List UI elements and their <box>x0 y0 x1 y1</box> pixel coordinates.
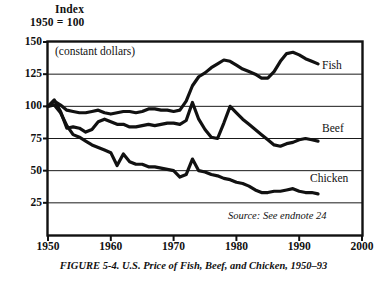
series-label-beef: Beef <box>322 122 344 134</box>
source-note: Source: See endnote 24 <box>228 210 326 221</box>
y-axis-base-note: 1950 = 100 <box>30 16 85 28</box>
x-tick-label: 1990 <box>276 240 322 252</box>
series-label-fish: Fish <box>322 59 342 71</box>
figure-container: Index 1950 = 100 (constant dollars) Sour… <box>0 0 387 283</box>
y-tick-label: 100 <box>0 100 42 112</box>
x-tick-label: 1950 <box>25 240 71 252</box>
y-tick-label: 150 <box>0 36 42 48</box>
series-line-chicken <box>48 105 318 194</box>
x-tick-label: 1970 <box>151 240 197 252</box>
x-tick-label: 2000 <box>339 240 385 252</box>
series-line-fish <box>48 52 318 114</box>
x-tick-label: 1980 <box>213 240 259 252</box>
y-tick-label: 25 <box>0 197 42 209</box>
figure-caption: FIGURE 5-4. U.S. Price of Fish, Beef, an… <box>0 260 387 271</box>
series-paths <box>48 52 318 194</box>
series-label-chicken: Chicken <box>310 172 348 184</box>
y-tick-label: 50 <box>0 165 42 177</box>
y-tick-label: 125 <box>0 68 42 80</box>
y-tick-label: 75 <box>0 133 42 145</box>
y-axis-title-index: Index <box>55 3 84 15</box>
constant-dollars-annotation: (constant dollars) <box>55 45 135 57</box>
x-tick-label: 1960 <box>88 240 134 252</box>
